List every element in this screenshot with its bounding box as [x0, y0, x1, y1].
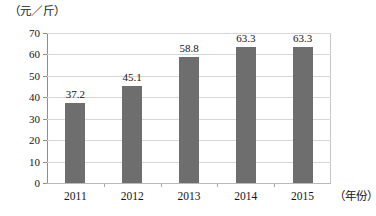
y-axis-unit-label: （元／斤）	[9, 4, 65, 18]
bar-2014	[236, 47, 256, 183]
y-tick-label-40: 40	[29, 92, 40, 103]
x-axis-title: （年份）	[334, 190, 376, 203]
bar-value-2012: 45.1	[112, 72, 152, 83]
y-tick-label-30: 30	[29, 114, 40, 125]
bar-2015	[293, 47, 313, 183]
bar-chart: （元／斤） 010203040506070 37.245.158.863.363…	[0, 0, 376, 216]
x-tick-mark-4	[274, 184, 275, 187]
plot-area	[47, 33, 331, 183]
x-tick-mark-1	[104, 184, 105, 187]
x-tick-label-2013: 2013	[159, 190, 219, 203]
x-tick-label-2012: 2012	[102, 190, 162, 203]
x-tick-label-2015: 2015	[273, 190, 333, 203]
bar-value-2014: 63.3	[226, 33, 266, 44]
x-tick-label-2011: 2011	[45, 190, 105, 203]
y-tick-label-10: 10	[29, 157, 40, 168]
bar-value-2013: 58.8	[169, 43, 209, 54]
bar-2011	[65, 103, 85, 183]
x-tick-mark-2	[161, 184, 162, 187]
y-tick-label-50: 50	[29, 71, 40, 82]
gridline-0	[47, 183, 331, 184]
bar-value-2015: 63.3	[283, 33, 323, 44]
y-tick-label-0: 0	[35, 178, 41, 189]
y-tick-label-70: 70	[29, 28, 40, 39]
bar-2013	[179, 57, 199, 183]
x-tick-label-2014: 2014	[216, 190, 276, 203]
x-tick-mark-3	[217, 184, 218, 187]
gridline-60	[47, 54, 331, 55]
y-tick-label-60: 60	[29, 49, 40, 60]
bar-2012	[122, 86, 142, 183]
y-tick-label-20: 20	[29, 135, 40, 146]
bar-value-2011: 37.2	[55, 89, 95, 100]
